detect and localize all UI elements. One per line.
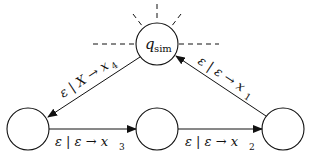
transition-label-x2: ε | ε → x (185, 134, 239, 149)
transition-subscript-x2: 2 (249, 142, 255, 152)
state-q-sim-subscript: sim (154, 43, 172, 54)
transition-label-x3: ε | ε → x (55, 134, 109, 149)
transition-left-to-middle: ε | ε → x 3 (49, 129, 136, 152)
state-diagram: q sim ε | X → x 4 ε | ε → x 3 ε | ε → x … (0, 0, 311, 157)
state-left (7, 108, 49, 150)
transition-subscript-x4: 4 (109, 60, 119, 72)
transition-subscript-x3: 3 (119, 142, 125, 152)
state-middle (136, 108, 178, 150)
state-right (262, 108, 304, 150)
transition-middle-to-right: ε | ε → x 2 (178, 129, 262, 152)
state-q-sim: q sim (136, 23, 178, 65)
transition-qsim-to-left: ε | X → x 4 (48, 53, 140, 117)
transition-right-to-qsim: ε | ε → x 1 (176, 53, 266, 116)
